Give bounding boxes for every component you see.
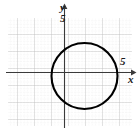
graph-figure: y x 5 5	[0, 0, 139, 133]
x-axis-label: x	[128, 74, 134, 85]
major-gridlines	[0, 0, 139, 133]
coordinate-plane-svg	[0, 0, 139, 133]
grid-area	[0, 0, 139, 133]
x-axis-tick-label-5: 5	[120, 56, 126, 67]
y-axis-tick-label-5: 5	[60, 13, 66, 24]
